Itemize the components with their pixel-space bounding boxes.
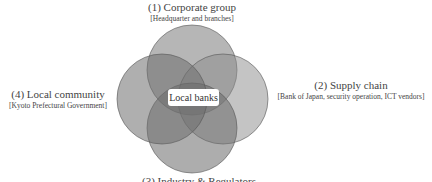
local-community-subtitle: [Kyoto Prefectural Government]	[2, 102, 114, 110]
label-supply-chain: (2) Supply chain [Bank of Japan, securit…	[270, 80, 432, 101]
supply-chain-title: (2) Supply chain	[270, 80, 432, 91]
label-industry: (3) Industry & Regulators	[142, 176, 242, 182]
label-corporate-group: (1) Corporate group [Headquarter and bra…	[142, 2, 242, 23]
industry-title: (3) Industry & Regulators	[142, 176, 242, 182]
supply-chain-subtitle: [Bank of Japan, security operation, ICT …	[270, 93, 432, 101]
label-local-community: (4) Local community [Kyoto Prefectural G…	[2, 89, 114, 110]
center-label-local-banks: Local banks	[168, 89, 219, 106]
corporate-group-subtitle: [Headquarter and branches]	[142, 15, 242, 23]
corporate-group-title: (1) Corporate group	[142, 2, 242, 13]
local-community-title: (4) Local community	[2, 89, 114, 100]
